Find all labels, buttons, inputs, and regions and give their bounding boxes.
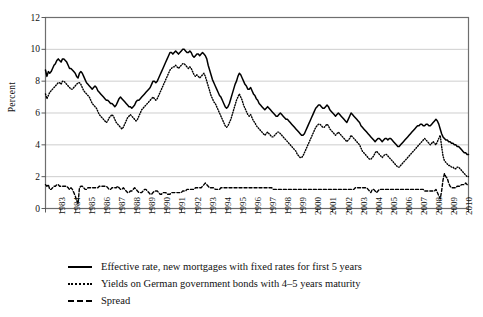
chart-figure: Percent 024681012 1983198419851986198719… [0,0,483,317]
x-tick-label: 1983 [57,197,67,215]
x-tick-label: 2003 [359,197,369,215]
x-tick-label: 1995 [238,197,248,215]
x-tick-label: 2002 [344,197,354,215]
x-tick-label: 2006 [404,197,414,215]
x-tick-label: 1985 [87,197,97,215]
legend-item: Yields on German government bonds with 4… [66,275,466,292]
x-tick-label: 1998 [283,197,293,215]
x-tick-label: 1984 [72,197,82,215]
x-tick-label: 1986 [102,197,112,215]
x-tick-label: 1987 [117,197,127,215]
x-tick-label: 1989 [147,197,157,215]
x-tick-label: 2000 [313,197,323,215]
x-tick-label: 2004 [374,197,384,215]
x-tick-label: 1997 [268,197,278,215]
chart-legend: Effective rate, new mortgages with fixed… [66,258,466,309]
x-tick-label: 1994 [223,197,233,215]
x-tick-label: 2009 [449,197,459,215]
x-tick-label: 1990 [162,197,172,215]
legend-label: Effective rate, new mortgages with fixed… [101,261,362,272]
x-tick-label: 2007 [419,197,429,215]
legend-dashed-line-icon [66,295,94,307]
legend-label: Yields on German government bonds with 4… [101,278,361,289]
legend-solid-line-icon [66,261,94,273]
x-tick-label: 2008 [434,197,444,215]
x-tick-label: 1991 [177,197,187,215]
x-tick-label: 2010 [464,197,474,215]
legend-item: Spread [66,292,466,309]
x-tick-label: 1996 [253,197,263,215]
x-tick-label: 1993 [208,197,218,215]
legend-label: Spread [101,295,130,306]
legend-item: Effective rate, new mortgages with fixed… [66,258,466,275]
x-tick-label: 1988 [132,197,142,215]
x-tick-label: 2005 [389,197,399,215]
x-tick-label: 1999 [298,197,308,215]
x-tick-label: 1992 [193,197,203,215]
legend-dotted-line-icon [66,278,94,290]
x-tick-label: 2001 [328,197,338,215]
